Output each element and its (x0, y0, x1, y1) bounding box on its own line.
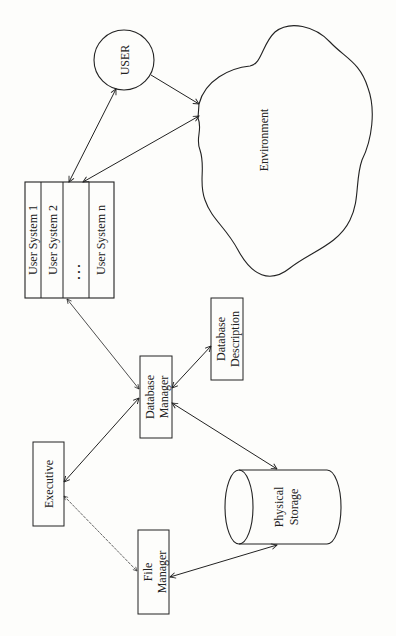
database-manager-node: Database Manager (140, 356, 172, 438)
physical-storage-label-2: Storage (287, 489, 301, 526)
edges (64, 75, 277, 577)
database-description-node: Database Description (211, 298, 243, 380)
user-systems-box: User System 1 User System 2 . . . User S… (25, 182, 114, 298)
physical-storage-node: Physical Storage (225, 470, 341, 544)
user-node: USER (94, 30, 154, 90)
user-system-1: User System 1 (26, 205, 40, 275)
file-manager-label-2: Manager (155, 551, 169, 594)
edge-usersystems-dbmanager (67, 299, 139, 389)
user-system-2: User System 2 (46, 205, 60, 275)
edge-dbmanager-dbdescription (172, 346, 211, 388)
edge-usersystems-environment (83, 116, 199, 182)
database-manager-label-2: Manager (157, 376, 171, 419)
environment-label: Environment (257, 108, 271, 171)
edge-dbmanager-physicalstorage (172, 403, 277, 469)
user-label: USER (118, 45, 132, 76)
edge-dbmanager-executive (64, 398, 139, 482)
database-description-label-1: Database (214, 317, 228, 361)
user-system-ellipsis: . . . (69, 265, 83, 280)
executive-node: Executive (33, 442, 64, 526)
edge-user-usersystems (69, 89, 116, 182)
user-system-n: User System n (94, 205, 108, 275)
file-manager-node: File Manager (138, 530, 169, 614)
database-description-label-2: Description (228, 311, 242, 367)
environment-node: Environment (198, 26, 372, 277)
system-diagram: USER Environment User System 1 User Syst… (0, 0, 396, 636)
physical-storage-label-1: Physical (272, 486, 286, 527)
file-manager-label-1: File (141, 563, 155, 582)
edge-user-environment (151, 75, 199, 104)
database-manager-label-1: Database (143, 375, 157, 419)
edge-executive-filemanager (64, 496, 137, 571)
edge-filemanager-physicalstorage (170, 545, 277, 577)
executive-label: Executive (42, 460, 56, 508)
